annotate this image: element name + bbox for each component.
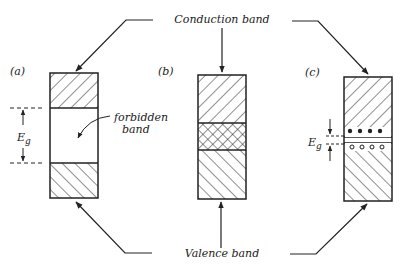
- panel-a: (a) Eg forbidden band: [10, 65, 168, 198]
- energy-gap-label-a: Eg: [16, 131, 31, 146]
- valence-band-c: [344, 143, 392, 201]
- conduction-band-arrows: [76, 20, 368, 74]
- conduction-band-label: Conduction band: [174, 13, 269, 26]
- energy-gap-label-c: Eg: [307, 136, 322, 151]
- valence-band-arrows: [76, 202, 367, 254]
- overlap-region-b: [198, 123, 246, 150]
- panel-b-label: (b): [158, 65, 174, 78]
- panel-c: (c) Eg: [305, 66, 392, 201]
- valence-band-label: Valence band: [185, 247, 260, 260]
- forbidden-band-label-line2: band: [122, 123, 150, 136]
- panel-a-label: (a): [10, 65, 25, 78]
- forbidden-band-arrow: [78, 116, 110, 138]
- conduction-band-a: [50, 73, 98, 108]
- valence-band-a: [50, 163, 98, 198]
- valence-band-b: [198, 150, 246, 199]
- conduction-band-b: [198, 75, 246, 123]
- band-diagram: Conduction band Valence band (a) Eg forb…: [0, 0, 403, 266]
- panel-c-label: (c): [305, 66, 320, 79]
- panel-b: (b): [158, 65, 246, 199]
